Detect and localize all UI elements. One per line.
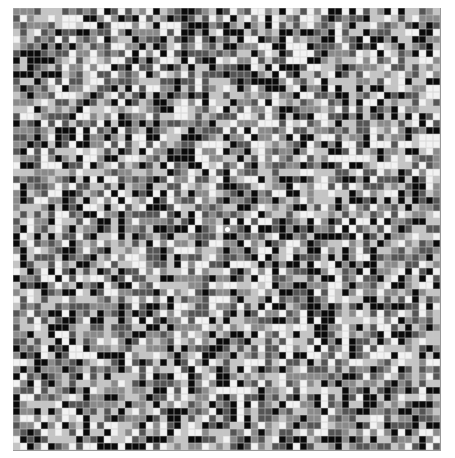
grid-cell xyxy=(384,134,391,141)
grid-cell xyxy=(419,359,426,366)
grid-cell xyxy=(300,387,307,394)
grid-cell xyxy=(342,394,349,401)
grid-cell xyxy=(216,233,223,240)
grid-cell xyxy=(13,317,20,324)
grid-cell xyxy=(258,240,265,247)
grid-cell xyxy=(48,415,55,422)
grid-cell xyxy=(265,99,272,106)
grid-cell xyxy=(216,113,223,120)
grid-cell xyxy=(363,120,370,127)
grid-cell xyxy=(146,352,153,359)
grid-cell xyxy=(349,401,356,408)
grid-cell xyxy=(377,240,384,247)
grid-cell xyxy=(76,387,83,394)
grid-cell xyxy=(286,394,293,401)
grid-cell xyxy=(55,380,62,387)
grid-cell xyxy=(216,225,223,232)
grid-cell xyxy=(209,36,216,43)
grid-cell xyxy=(216,176,223,183)
grid-cell xyxy=(97,85,104,92)
grid-cell xyxy=(188,169,195,176)
grid-cell xyxy=(104,92,111,99)
grid-cell xyxy=(237,275,244,282)
grid-cell xyxy=(286,15,293,22)
grid-cell xyxy=(90,204,97,211)
grid-cell xyxy=(83,415,90,422)
grid-cell xyxy=(174,289,181,296)
grid-cell xyxy=(307,310,314,317)
grid-cell xyxy=(363,394,370,401)
grid-cell xyxy=(125,247,132,254)
grid-cell xyxy=(426,8,433,15)
grid-cell xyxy=(377,415,384,422)
grid-cell xyxy=(90,106,97,113)
grid-cell xyxy=(433,366,440,373)
grid-cell xyxy=(377,64,384,71)
grid-cell xyxy=(328,429,335,436)
grid-cell xyxy=(69,415,76,422)
grid-cell xyxy=(62,113,69,120)
grid-cell xyxy=(181,113,188,120)
grid-cell xyxy=(62,289,69,296)
grid-cell xyxy=(125,408,132,415)
grid-cell xyxy=(76,71,83,78)
grid-cell xyxy=(251,359,258,366)
grid-cell xyxy=(335,345,342,352)
grid-cell xyxy=(286,134,293,141)
grid-cell xyxy=(13,113,20,120)
grid-cell xyxy=(20,8,27,15)
grid-cell xyxy=(286,338,293,345)
grid-cell xyxy=(433,155,440,162)
grid-cell xyxy=(244,183,251,190)
grid-cell xyxy=(412,176,419,183)
grid-cell xyxy=(251,8,258,15)
grid-cell xyxy=(412,401,419,408)
grid-cell xyxy=(342,324,349,331)
grid-cell xyxy=(90,394,97,401)
grid-cell xyxy=(405,359,412,366)
grid-cell xyxy=(370,64,377,71)
grid-cell xyxy=(153,176,160,183)
grid-cell xyxy=(76,268,83,275)
grid-cell xyxy=(76,127,83,134)
grid-cell xyxy=(83,359,90,366)
grid-cell xyxy=(20,422,27,429)
grid-cell xyxy=(384,120,391,127)
grid-cell xyxy=(237,443,244,450)
grid-cell xyxy=(118,233,125,240)
grid-cell xyxy=(398,401,405,408)
grid-cell xyxy=(433,317,440,324)
grid-cell xyxy=(132,218,139,225)
grid-cell xyxy=(349,71,356,78)
grid-cell xyxy=(356,155,363,162)
grid-cell xyxy=(146,113,153,120)
grid-cell xyxy=(265,120,272,127)
grid-cell xyxy=(349,296,356,303)
grid-cell xyxy=(41,282,48,289)
grid-cell xyxy=(27,240,34,247)
grid-cell xyxy=(251,134,258,141)
grid-cell xyxy=(370,233,377,240)
grid-cell xyxy=(363,15,370,22)
grid-cell xyxy=(321,120,328,127)
grid-cell xyxy=(34,303,41,310)
grid-cell xyxy=(300,408,307,415)
grid-cell xyxy=(188,176,195,183)
grid-cell xyxy=(83,338,90,345)
grid-cell xyxy=(195,113,202,120)
grid-cell xyxy=(20,324,27,331)
grid-cell xyxy=(34,408,41,415)
grid-cell xyxy=(223,422,230,429)
grid-cell xyxy=(391,169,398,176)
grid-cell xyxy=(419,176,426,183)
grid-cell xyxy=(216,92,223,99)
grid-cell xyxy=(265,85,272,92)
grid-cell xyxy=(349,64,356,71)
grid-cell xyxy=(41,408,48,415)
grid-cell xyxy=(265,429,272,436)
grid-cell xyxy=(244,289,251,296)
grid-cell xyxy=(167,176,174,183)
grid-cell xyxy=(230,183,237,190)
grid-cell xyxy=(314,373,321,380)
grid-cell xyxy=(125,289,132,296)
